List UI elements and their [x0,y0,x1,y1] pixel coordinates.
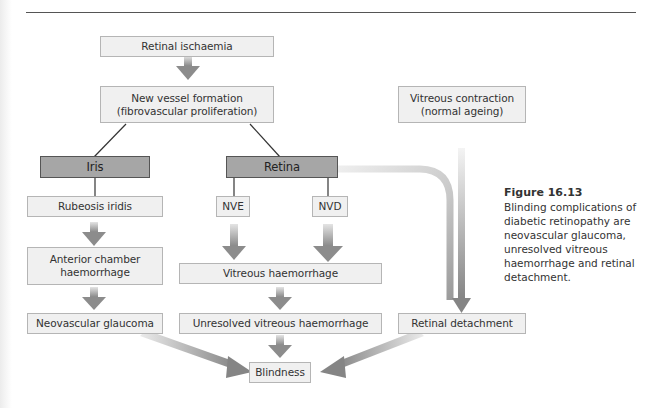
node-new-vessel-formation: New vessel formation (fibrovascular prol… [100,86,274,123]
node-label: Iris [87,161,104,174]
node-label: NVE [222,200,243,213]
node-label: Vitreous haemorrhage [223,267,338,280]
node-label: New vessel formation (fibrovascular prol… [117,92,258,118]
node-label: Retina [264,161,300,174]
node-rubeosis-iridis: Rubeosis iridis [27,196,163,217]
node-vitreous-haemorrhage: Vitreous haemorrhage [179,263,382,284]
arrow-glaucoma-to-blindness [140,330,252,378]
figure-number: Figure 16.13 [504,186,644,200]
node-unresolved-vitreous-haemorrhage: Unresolved vitreous haemorrhage [179,313,382,334]
arrow-vitreous-to-unresolved [268,287,292,310]
line-vessel-to-iris [94,124,126,157]
arrow-ischaemia-to-vessel [176,56,200,80]
arrow-rubeosis-to-anterior [82,222,106,246]
arrow-nve-to-vitreous [222,224,246,260]
node-label: Neovascular glaucoma [36,317,154,330]
node-vitreous-contraction: Vitreous contraction (normal ageing) [398,86,526,123]
node-label: Rubeosis iridis [58,200,132,213]
line-vessel-to-retina [250,124,280,157]
node-retinal-ischaemia: Retinal ischaemia [100,36,274,57]
figure-caption: Figure 16.13 Blinding complications of d… [504,186,644,284]
node-iris: Iris [40,156,150,178]
node-retinal-detachment: Retinal detachment [398,313,526,334]
node-label: NVD [319,200,342,213]
node-label: Vitreous contraction (normal ageing) [410,92,514,118]
figure-caption-text: Blinding complications of diabetic retin… [504,201,636,283]
arrow-nvd-to-vitreous [313,224,343,262]
node-label: Anterior chamber haemorrhage [50,253,141,279]
arrow-anterior-to-glaucoma [82,287,106,310]
node-nvd: NVD [312,196,348,217]
node-anterior-chamber-haemorrhage: Anterior chamber haemorrhage [27,247,163,285]
node-label: Blindness [255,366,305,379]
node-retina: Retina [226,156,338,178]
arrow-detachment-to-blindness [320,330,424,378]
node-label: Unresolved vitreous haemorrhage [193,317,369,330]
node-blindness: Blindness [249,362,311,383]
arrow-contraction-to-detachment [452,148,471,313]
arrow-unresolved-to-blindness [268,335,292,358]
node-nve: NVE [216,196,250,217]
node-label: Retinal ischaemia [141,40,232,53]
node-label: Retinal detachment [411,317,512,330]
node-neovascular-glaucoma: Neovascular glaucoma [27,313,163,334]
